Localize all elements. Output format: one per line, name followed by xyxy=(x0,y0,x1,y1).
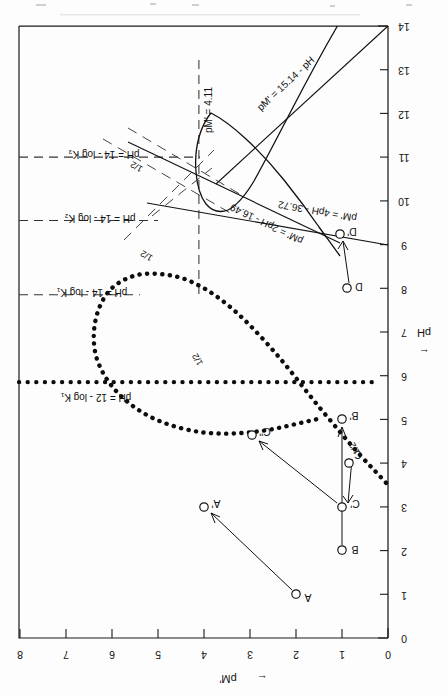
point-label-Cprime: C' xyxy=(350,498,360,510)
horizontal-reference-lines xyxy=(19,157,372,382)
point-marker-Aprime[interactable] xyxy=(200,503,208,511)
pH-tick-label-14: 14 xyxy=(398,21,410,33)
point-marker-Cprime[interactable] xyxy=(338,503,346,511)
pH-tick-label-4: 4 xyxy=(401,458,407,470)
pH-tick-label-13: 13 xyxy=(398,65,410,77)
arrow-Cprime-to-Cdoubleprime xyxy=(259,441,337,503)
point-label-A: A xyxy=(304,592,311,604)
vertical-reference-line-group: pM' = 4.11 xyxy=(199,60,214,300)
point-label-Dprime: D' xyxy=(347,226,357,238)
pH-tick-label-12: 12 xyxy=(398,109,410,121)
point-marker-Cdoubleprime[interactable] xyxy=(248,431,256,439)
line-pM-2pH-minus-16-49 xyxy=(128,142,340,243)
scan-artifacts xyxy=(36,3,412,15)
point-marker-Bprime[interactable] xyxy=(338,415,346,423)
pH-tick-labels: 14 13 12 11 10 9 8 7 6 5 4 3 2 1 0 xyxy=(398,21,410,645)
label-pH-14-logK1: pH = 14 - log K₁ xyxy=(56,287,127,298)
pM-tick-label-6: 6 xyxy=(109,649,115,661)
state-points: A A' B B' C C' C'' xyxy=(200,226,363,604)
fraction-label-3: 1/2 xyxy=(139,248,155,263)
point-label-C: C xyxy=(354,449,362,461)
curve-fraction-labels: 1/2 1/2 1/2 1/2 xyxy=(129,159,362,456)
pM-tick-label-0: 0 xyxy=(385,649,391,661)
label-pM-4-11: pM' = 4.11 xyxy=(203,87,214,133)
pH-tick-label-0: 0 xyxy=(401,633,407,645)
point-label-B: B xyxy=(351,544,358,556)
label-pH-14-logK3: pH = 14 - log K₃ xyxy=(68,149,139,160)
state-point-arrows xyxy=(211,241,353,590)
pH-tick-label-1: 1 xyxy=(401,590,407,602)
pM-prime-axis: 0 1 2 3 4 5 6 7 8 pM' ← xyxy=(17,628,391,685)
point-marker-C[interactable] xyxy=(345,459,353,467)
point-marker-D[interactable] xyxy=(343,284,351,292)
point-marker-Dprime[interactable] xyxy=(336,230,344,238)
equation-lines: pM' = 15.14 - pH pM' = 2pH - 16.49 pM' =… xyxy=(128,26,388,247)
pH-axis: 14 13 12 11 10 9 8 7 6 5 4 3 2 1 0 pH xyxy=(378,21,431,645)
fraction-label-2: 1/2 xyxy=(190,352,205,368)
pM-prime-ticks xyxy=(20,628,388,638)
pM-tick-label-7: 7 xyxy=(63,649,69,661)
line-pM-15-14-minus-pH xyxy=(216,26,388,184)
pH-tick-label-8: 8 xyxy=(401,284,407,296)
fraction-label-4: 1/2 xyxy=(129,159,145,174)
pH-tick-label-9: 9 xyxy=(401,240,407,252)
pH-tick-label-7: 7 xyxy=(401,327,407,339)
pH-tick-label-10: 10 xyxy=(398,196,410,208)
pH-tick-label-11: 11 xyxy=(398,152,409,164)
point-label-Bprime: B' xyxy=(349,410,358,422)
pM-prime-axis-arrow-icon: ← xyxy=(257,673,268,685)
arrow-A-to-Aprime xyxy=(211,513,292,590)
pH-ticks xyxy=(378,26,388,638)
pM-tick-label-4: 4 xyxy=(201,649,207,661)
plot-area: 14 13 12 11 10 9 8 7 6 5 4 3 2 1 0 pH xyxy=(0,0,448,696)
pM-tick-label-2: 2 xyxy=(293,649,299,661)
pH-tick-label-3: 3 xyxy=(401,502,407,514)
point-label-Cdoubleprime: C'' xyxy=(259,426,271,438)
pM-tick-label-5: 5 xyxy=(155,649,161,661)
point-label-Aprime: A' xyxy=(211,498,220,510)
plot-svg: 14 13 12 11 10 9 8 7 6 5 4 3 2 1 0 pH xyxy=(0,0,448,696)
pH-tick-label-5: 5 xyxy=(401,415,407,427)
pM-prime-tick-labels: 0 1 2 3 4 5 6 7 8 xyxy=(17,649,391,661)
pH-axis-arrow-icon: ← xyxy=(419,347,430,359)
pH-axis-title: pH xyxy=(417,327,431,339)
pM-tick-label-1: 1 xyxy=(339,649,345,661)
pH-tick-label-6: 6 xyxy=(401,371,407,383)
point-label-D: D xyxy=(355,281,363,293)
label-pH-12-logK1: pH = 12 - log K₁ xyxy=(60,392,131,403)
point-marker-B[interactable] xyxy=(338,546,346,554)
pM-prime-axis-title: pM' xyxy=(219,673,236,685)
figure-page: 14 13 12 11 10 9 8 7 6 5 4 3 2 1 0 pH xyxy=(0,0,448,696)
point-marker-A[interactable] xyxy=(292,590,300,598)
label-pM-4pH-minus-36-72: pM' = 4pH - 36.72 xyxy=(277,199,358,224)
label-pM-15-14-minus-pH: pM' = 15.14 - pH xyxy=(255,54,317,112)
pM-tick-label-8: 8 xyxy=(17,649,23,661)
pH-tick-label-2: 2 xyxy=(401,546,407,558)
label-pH-14-logK2: pH = 14 - log K₂ xyxy=(64,213,135,224)
construction-line-2 xyxy=(128,128,243,196)
pM-tick-label-3: 3 xyxy=(247,649,253,661)
